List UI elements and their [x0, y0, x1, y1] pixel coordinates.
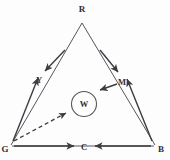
vertex-label-r: R — [79, 4, 86, 14]
triangle-edges — [11, 23, 155, 146]
vertex-label-b: B — [158, 144, 164, 154]
arrow-g-to-y — [13, 78, 38, 141]
node-label-m: M — [118, 77, 126, 87]
diagram-canvas: R G B Y M C W — [0, 0, 170, 160]
arrow-m-to-w — [100, 84, 117, 90]
arrow-group — [13, 50, 152, 146]
node-label-c: C — [81, 142, 87, 152]
arrow-b-to-m — [127, 79, 152, 141]
node-label-w: W — [80, 99, 89, 109]
colour-triangle-diagram: R G B Y M C W — [0, 0, 170, 160]
node-label-y: Y — [36, 75, 42, 85]
arrow-r-to-y — [45, 50, 65, 71]
vertex-label-g: G — [1, 144, 8, 154]
edge-r-g — [11, 23, 82, 145]
